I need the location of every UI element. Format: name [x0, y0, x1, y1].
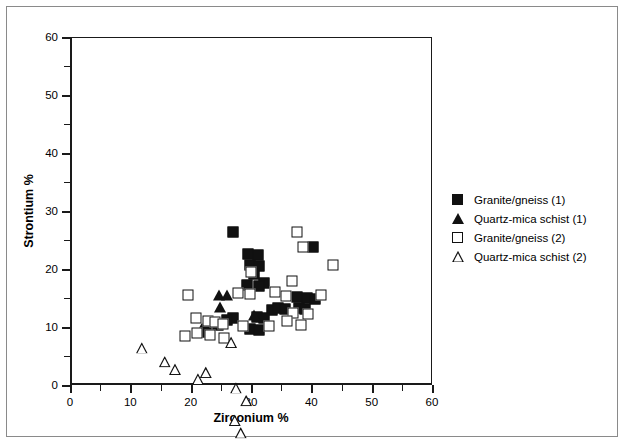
data-point	[230, 382, 242, 394]
x-tick-minor	[402, 385, 403, 391]
data-point	[302, 309, 313, 320]
data-point	[269, 287, 280, 298]
data-point	[237, 320, 248, 331]
scatter-plot-figure: Strontium % 01020304050600102030405060 Z…	[0, 0, 625, 444]
legend-item: Quartz-mica schist (1)	[452, 209, 586, 228]
data-point	[297, 241, 308, 252]
x-axis-title: Zirconium %	[70, 411, 432, 425]
y-tick-major	[62, 327, 70, 329]
x-tick-minor	[221, 385, 222, 391]
data-point	[204, 330, 215, 341]
x-tick-label: 40	[305, 396, 318, 408]
plot-area: 01020304050600102030405060	[70, 37, 432, 385]
y-tick-label: 50	[45, 89, 58, 101]
data-point	[214, 302, 226, 313]
data-point	[308, 241, 319, 252]
x-tick-major	[311, 385, 313, 393]
legend-item: Quartz-mica schist (2)	[452, 247, 586, 266]
y-tick-minor	[64, 298, 70, 299]
y-tick-major	[62, 385, 70, 387]
data-point	[248, 310, 260, 321]
data-point	[169, 363, 181, 375]
y-tick-minor	[64, 66, 70, 67]
y-tick-major	[62, 211, 70, 213]
y-tick-label: 40	[45, 147, 58, 159]
y-tick-major	[62, 269, 70, 271]
legend-item: Granite/gneiss (1)	[452, 190, 586, 209]
legend-marker-filled-triangle-icon	[452, 213, 470, 224]
x-tick-label: 60	[426, 396, 439, 408]
data-point	[221, 290, 233, 301]
data-point	[182, 290, 193, 301]
x-tick-major	[432, 385, 434, 393]
data-point	[296, 319, 307, 330]
x-tick-label: 0	[67, 396, 73, 408]
legend-marker-open-triangle-icon	[452, 251, 470, 263]
y-tick-label: 10	[45, 321, 58, 333]
y-tick-minor	[64, 182, 70, 183]
y-tick-label: 20	[45, 263, 58, 275]
data-point	[245, 288, 256, 299]
data-point	[225, 337, 237, 349]
data-point	[264, 320, 275, 331]
data-point	[246, 266, 257, 277]
legend-item-label: Granite/gneiss (1)	[474, 194, 565, 206]
data-point	[180, 331, 191, 342]
data-point	[227, 226, 238, 237]
data-point	[240, 395, 252, 407]
x-tick-minor	[161, 385, 162, 391]
x-tick-major	[191, 385, 193, 393]
x-tick-label: 50	[365, 396, 378, 408]
data-point	[232, 288, 243, 299]
data-point	[291, 226, 302, 237]
data-point	[200, 367, 212, 379]
x-tick-minor	[342, 385, 343, 391]
y-tick-label: 0	[52, 379, 58, 391]
x-tick-label: 10	[124, 396, 137, 408]
y-tick-major	[62, 153, 70, 155]
data-point	[136, 342, 148, 354]
y-tick-minor	[64, 240, 70, 241]
x-axis-title-text: Zirconium %	[213, 411, 288, 425]
data-point	[191, 313, 202, 324]
data-point	[218, 318, 229, 329]
data-point	[328, 259, 339, 270]
data-point	[229, 414, 241, 426]
data-point	[235, 427, 247, 439]
y-axis-title: Strontium %	[20, 37, 38, 385]
x-tick-major	[70, 385, 72, 393]
y-tick-major	[62, 95, 70, 97]
y-tick-minor	[64, 356, 70, 357]
x-tick-minor	[281, 385, 282, 391]
data-point	[287, 275, 298, 286]
y-tick-label: 30	[45, 205, 58, 217]
data-point	[315, 289, 326, 300]
legend-item: Granite/gneiss (2)	[452, 228, 586, 247]
y-axis-title-text: Strontium %	[22, 174, 36, 248]
y-tick-major	[62, 37, 70, 39]
y-tick-minor	[64, 124, 70, 125]
x-tick-major	[130, 385, 132, 393]
legend-item-label: Quartz-mica schist (1)	[474, 213, 586, 225]
data-point	[191, 328, 202, 339]
x-tick-major	[372, 385, 374, 393]
data-point	[282, 315, 293, 326]
x-tick-major	[251, 385, 253, 393]
legend-item-label: Quartz-mica schist (2)	[474, 251, 586, 263]
legend-marker-filled-square-icon	[452, 194, 470, 205]
legend-marker-open-square-icon	[452, 232, 470, 243]
x-tick-label: 20	[184, 396, 197, 408]
legend-item-label: Granite/gneiss (2)	[474, 232, 565, 244]
y-tick-label: 60	[45, 31, 58, 43]
legend: Granite/gneiss (1)Quartz-mica schist (1)…	[452, 190, 586, 266]
x-tick-minor	[100, 385, 101, 391]
data-point	[280, 290, 291, 301]
